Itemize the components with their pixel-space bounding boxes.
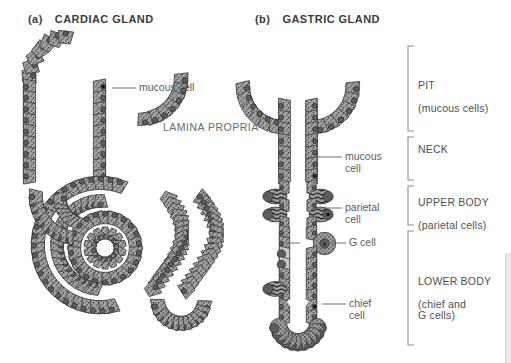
region-pit-sub: (mucous cells): [418, 103, 488, 115]
panel-b-prefix: (b): [255, 13, 270, 25]
region-pit-name: PIT: [418, 80, 488, 92]
region-lower-body-name: LOWER BODY: [418, 276, 491, 288]
region-label-pit: PIT (mucous cells): [418, 68, 488, 126]
callout-parietal-cell: parietal cell: [345, 202, 379, 225]
region-lower-body-sub: (chief and G cells): [418, 299, 491, 322]
region-upper-body-name: UPPER BODY: [418, 197, 489, 209]
region-label-lower-body: LOWER BODY (chief and G cells): [418, 264, 491, 333]
lamina-propria-label: LAMINA PROPRIA: [163, 121, 259, 133]
panel-a-prefix: (a): [28, 13, 43, 25]
callout-chief-cell: chief cell: [349, 298, 371, 321]
panel-a-title-text: CARDIAC GLAND: [55, 13, 154, 25]
figure-canvas: (a) CARDIAC GLAND (b) GASTRIC GLAND LAMI…: [0, 0, 511, 363]
region-label-neck: NECK: [418, 132, 448, 167]
panel-a-title: (a) CARDIAC GLAND: [28, 13, 154, 25]
page-edge-strip: [505, 253, 511, 363]
callout-mucous-cell-cardiac: mucous cell: [139, 82, 194, 94]
callout-mucous-cell-gastric: mucous cell: [345, 151, 382, 174]
panel-b-title: (b) GASTRIC GLAND: [255, 13, 380, 25]
region-brackets: [408, 46, 414, 345]
callout-g-cell: G cell: [349, 237, 376, 249]
region-upper-body-sub: (parietal cells): [418, 220, 489, 232]
region-neck-name: NECK: [418, 144, 448, 156]
region-label-upper-body: UPPER BODY (parietal cells): [418, 185, 489, 243]
panel-b-title-text: GASTRIC GLAND: [282, 13, 380, 25]
